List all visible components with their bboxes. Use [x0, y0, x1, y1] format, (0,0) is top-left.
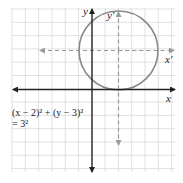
equation-line-1: (x − 2)² + (y − 3)² [12, 107, 83, 118]
y-prime-label: y' [107, 10, 114, 21]
y-axis-label: y [83, 6, 88, 17]
x-prime-label: x' [165, 54, 172, 65]
equation-line-2: = 3² [12, 118, 83, 129]
coordinate-plane [0, 0, 183, 183]
circle-equation: (x − 2)² + (y − 3)² = 3² [12, 107, 83, 129]
x-axis-label: x [166, 93, 171, 104]
axes [13, 9, 175, 172]
